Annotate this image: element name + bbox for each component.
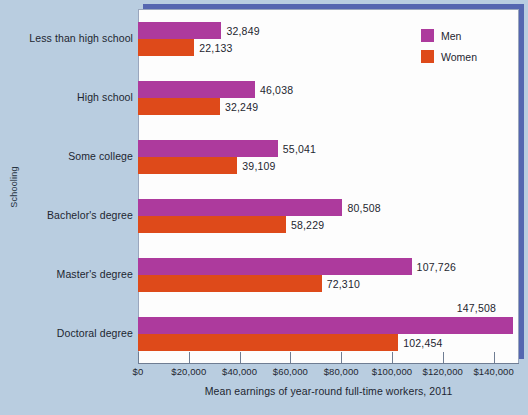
bar-men-0[interactable] — [138, 22, 221, 39]
bar-value-label: 39,109 — [242, 160, 275, 172]
bar-value-label: 107,726 — [417, 261, 456, 273]
bar-value-label: 32,249 — [225, 101, 258, 113]
x-tick — [138, 352, 139, 363]
x-tick-label: $0 — [133, 366, 144, 377]
bar-value-label: 46,038 — [260, 84, 293, 96]
bar-men-5[interactable] — [138, 317, 513, 334]
x-tick — [240, 352, 241, 363]
x-tick — [392, 352, 393, 363]
bar-value-label: 22,133 — [199, 42, 232, 54]
category-label: Bachelor's degree — [0, 209, 133, 221]
legend-swatch-icon — [421, 50, 434, 63]
x-axis-line — [138, 363, 519, 364]
bar-value-label: 102,454 — [403, 337, 442, 349]
bar-women-2[interactable] — [138, 157, 237, 174]
category-label: Master's degree — [0, 268, 133, 280]
category-label: High school — [0, 91, 133, 103]
x-tick-label: $120,000 — [423, 366, 463, 377]
bar-men-2[interactable] — [138, 140, 278, 157]
x-tick — [189, 352, 190, 363]
x-tick-label: $80,000 — [324, 366, 359, 377]
bar-women-3[interactable] — [138, 216, 286, 233]
bar-men-3[interactable] — [138, 199, 342, 216]
bar-value-label: 147,508 — [457, 302, 496, 314]
x-tick-label: $60,000 — [273, 366, 308, 377]
x-tick — [341, 352, 342, 363]
category-label: Doctoral degree — [0, 327, 133, 339]
legend-label: Men — [441, 30, 461, 42]
bar-value-label: 32,849 — [226, 25, 259, 37]
x-tick-label: $100,000 — [372, 366, 412, 377]
x-tick-label: $20,000 — [171, 366, 206, 377]
bar-value-label: 80,508 — [347, 202, 380, 214]
legend-swatch-icon — [421, 29, 434, 42]
bar-women-0[interactable] — [138, 39, 194, 56]
bar-women-4[interactable] — [138, 275, 322, 292]
x-tick-label: $40,000 — [222, 366, 257, 377]
legend-item-women[interactable]: Women — [421, 48, 477, 65]
bar-value-label: 72,310 — [327, 278, 360, 290]
category-label: Some college — [0, 150, 133, 162]
bar-chart-figure: Schooling Less than high schoolHigh scho… — [0, 0, 528, 415]
bar-women-1[interactable] — [138, 98, 220, 115]
x-axis-title: Mean earnings of year-round full-time wo… — [138, 385, 519, 397]
bar-value-label: 58,229 — [291, 219, 324, 231]
chart-legend: MenWomen — [421, 27, 477, 69]
bar-men-1[interactable] — [138, 81, 255, 98]
x-tick — [290, 352, 291, 363]
bar-value-label: 55,041 — [283, 143, 316, 155]
category-label: Less than high school — [0, 32, 133, 44]
x-tick-label: $140,000 — [473, 366, 513, 377]
bar-men-4[interactable] — [138, 258, 412, 275]
x-tick — [494, 352, 495, 363]
legend-label: Women — [441, 51, 477, 63]
bar-women-5[interactable] — [138, 334, 398, 351]
x-tick — [443, 352, 444, 363]
legend-item-men[interactable]: Men — [421, 27, 477, 44]
